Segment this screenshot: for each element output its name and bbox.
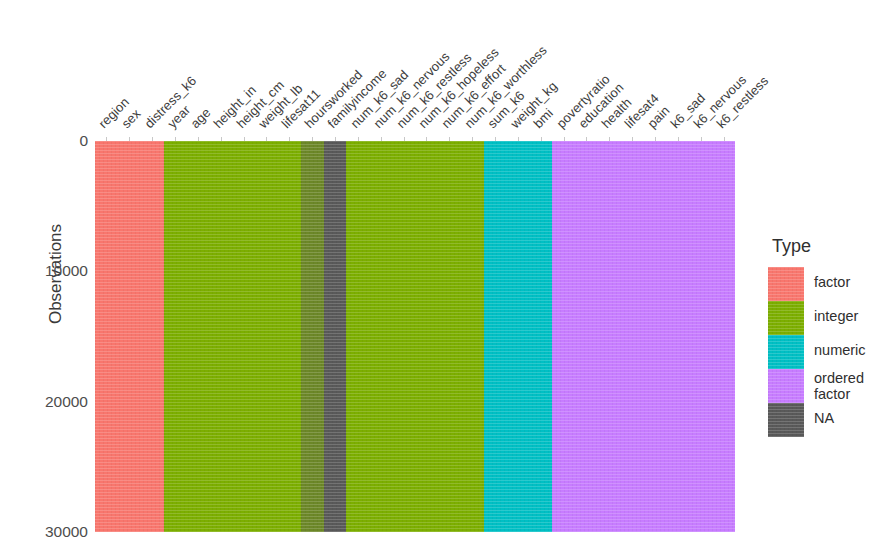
- band-texture: [484, 141, 553, 532]
- x-axis-tick-mark: [724, 137, 725, 141]
- legend-label: orderedfactor: [814, 370, 864, 402]
- heatmap-band: [324, 141, 347, 532]
- y-axis-ticks: 0100002000030000: [0, 141, 88, 532]
- band-texture: [301, 141, 324, 532]
- legend-keys: factorintegernumericorderedfactorNA: [768, 267, 804, 437]
- x-axis-tick-mark: [106, 137, 107, 141]
- legend-label: numeric: [814, 342, 866, 358]
- x-axis-tick-mark: [472, 137, 473, 141]
- x-axis-tick-mark: [701, 137, 702, 141]
- chart-root: Observations 0100002000030000 regionsexd…: [0, 0, 875, 547]
- heatmap-band: [164, 141, 301, 532]
- legend-label: factor: [814, 274, 850, 290]
- heatmap-band: [301, 141, 324, 532]
- x-axis-tick-mark: [586, 137, 587, 141]
- x-axis-tick-mark: [564, 137, 565, 141]
- heatmap-band: [484, 141, 553, 532]
- legend-title: Type: [772, 236, 873, 257]
- legend-swatch-texture: [768, 369, 804, 403]
- heatmap-band: [552, 141, 735, 532]
- x-axis-tick-mark: [495, 137, 496, 141]
- x-axis-tick-mark: [632, 137, 633, 141]
- x-axis-tick-mark: [289, 137, 290, 141]
- x-axis-tick-mark: [678, 137, 679, 141]
- x-axis-tick-mark: [655, 137, 656, 141]
- legend-swatch: [768, 369, 804, 403]
- y-axis-tick-label: 30000: [45, 523, 88, 541]
- legend-swatch-texture: [768, 267, 804, 301]
- heatmap-band: [346, 141, 483, 532]
- band-texture: [324, 141, 347, 532]
- x-axis-tick-mark: [404, 137, 405, 141]
- band-texture: [95, 141, 164, 532]
- x-axis-tick-mark: [609, 137, 610, 141]
- band-texture: [346, 141, 483, 532]
- x-axis-tick-mark: [266, 137, 267, 141]
- x-axis-tick-mark: [129, 137, 130, 141]
- x-axis-tick-mark: [335, 137, 336, 141]
- x-axis-tick-mark: [221, 137, 222, 141]
- x-axis-tick-mark: [244, 137, 245, 141]
- legend-swatch-texture: [768, 335, 804, 369]
- x-axis-tick-mark: [541, 137, 542, 141]
- legend-label: integer: [814, 308, 858, 324]
- legend-swatch: [768, 301, 804, 335]
- x-axis-tick-mark: [198, 137, 199, 141]
- legend: Type factorintegernumericorderedfactorNA: [768, 236, 873, 437]
- y-axis-tick-label: 20000: [45, 393, 88, 411]
- x-axis-tick-mark: [358, 137, 359, 141]
- x-axis-tick-mark: [449, 137, 450, 141]
- y-axis-tick-label: 0: [79, 132, 88, 150]
- legend-swatch: [768, 335, 804, 369]
- x-axis-tick-mark: [518, 137, 519, 141]
- x-axis: regionsexdistress_k6yearageheight_inheig…: [95, 0, 735, 141]
- legend-swatch-texture: [768, 403, 804, 437]
- legend-swatch: [768, 403, 804, 437]
- x-axis-tick-mark: [175, 137, 176, 141]
- band-texture: [164, 141, 301, 532]
- x-axis-tick-mark: [152, 137, 153, 141]
- heatmap-panel: [95, 141, 735, 532]
- x-axis-tick-mark: [381, 137, 382, 141]
- heatmap-band: [95, 141, 164, 532]
- legend-swatch: [768, 267, 804, 301]
- x-axis-tick-mark: [426, 137, 427, 141]
- y-axis-tick-label: 10000: [45, 262, 88, 280]
- legend-label-line: factor: [814, 386, 864, 402]
- legend-swatch-texture: [768, 301, 804, 335]
- x-axis-tick-mark: [312, 137, 313, 141]
- x-axis-tick-label: age: [187, 105, 213, 131]
- legend-label: NA: [814, 410, 834, 426]
- legend-label-line: ordered: [814, 370, 864, 386]
- band-texture: [552, 141, 735, 532]
